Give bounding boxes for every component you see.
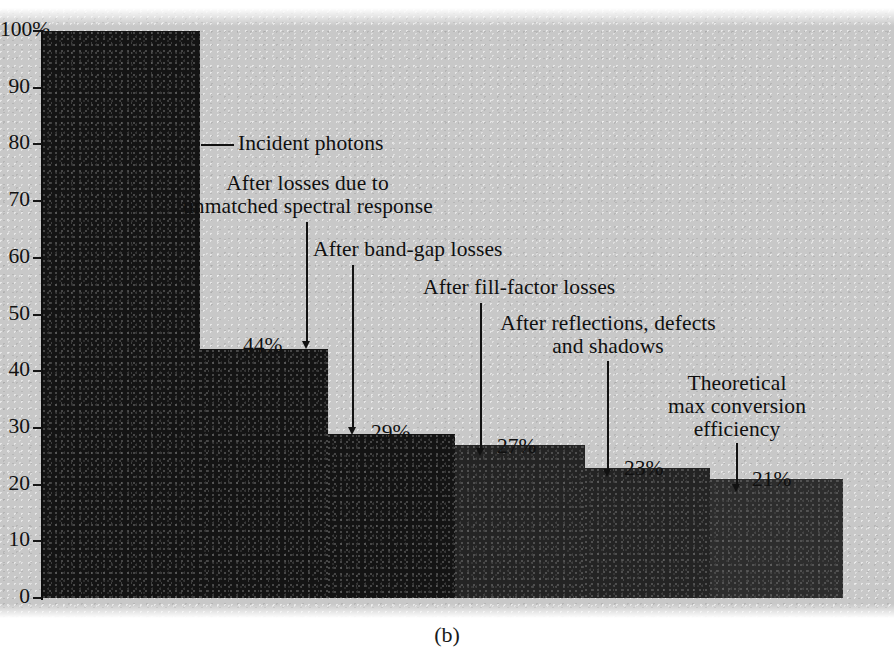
arrowhead-fill-factor-losses <box>476 448 484 456</box>
y-axis-tick <box>33 597 42 599</box>
plate-top-fade <box>0 8 894 26</box>
annotation-theoretical-max-efficiency: Theoretical max conversion efficiency <box>648 372 826 442</box>
y-axis-tick <box>33 143 42 145</box>
value-label-21: 21% <box>752 467 791 492</box>
annotation-line-1: After losses due to <box>226 171 389 195</box>
annotation-fill-factor-losses: After fill-factor losses <box>423 276 615 299</box>
y-axis-tick-label: 60 <box>0 246 30 268</box>
annotation-line-1: Theoretical <box>688 371 787 395</box>
bar-segment <box>710 479 843 598</box>
annotation-reflections-defects-shadows: After reflections, defects and shadows <box>495 312 721 358</box>
leader-line-fill-factor-losses <box>480 303 482 451</box>
y-axis-tick <box>33 257 42 259</box>
figure-panel-b: 100%9080706050403020100 44% 29% 27% 23% … <box>0 0 894 672</box>
leader-line-reflections-defects-shadows <box>607 361 609 472</box>
arrowhead-unmatched-spectral-response <box>302 341 310 349</box>
y-axis-tick-label: 30 <box>0 416 30 438</box>
y-axis-tick-label: 40 <box>0 359 30 381</box>
bar-segment <box>328 434 455 598</box>
y-axis-tick <box>33 87 42 89</box>
annotation-line-2: unmatched spectral response <box>183 194 433 218</box>
y-axis-tick-label: 10 <box>0 529 30 551</box>
y-axis-tick-label: 90 <box>0 76 30 98</box>
y-axis-tick-label: 0 <box>0 586 30 608</box>
annotation-line-2: max conversion <box>668 394 806 418</box>
annotation-line-1: After reflections, defects <box>500 311 716 335</box>
y-axis-tick <box>33 540 42 542</box>
value-label-29: 29% <box>371 420 410 445</box>
bar-segment <box>455 445 585 598</box>
value-label-23: 23% <box>624 456 663 481</box>
value-label-27: 27% <box>497 434 536 459</box>
value-label-44: 44% <box>243 333 282 358</box>
annotation-unmatched-spectral-response: After losses due to unmatched spectral r… <box>183 172 432 218</box>
y-axis-tick <box>33 314 42 316</box>
annotation-line-2: and shadows <box>552 334 664 358</box>
y-axis-tick-label: 50 <box>0 303 30 325</box>
y-axis-tick-label: 20 <box>0 473 30 495</box>
leader-line-incident-photons <box>201 144 234 146</box>
arrowhead-band-gap-losses <box>348 427 356 435</box>
y-axis-tick <box>33 484 42 486</box>
y-axis-tick <box>33 370 42 372</box>
y-axis-tick-label: 80 <box>0 132 30 154</box>
y-axis-tick <box>33 427 42 429</box>
arrowhead-reflections-defects-shadows <box>603 469 611 477</box>
leader-line-band-gap-losses <box>352 265 354 430</box>
bar-segment <box>585 468 710 598</box>
annotation-band-gap-losses: After band-gap losses <box>313 238 503 261</box>
y-axis-tick <box>33 200 42 202</box>
bar-segment <box>43 31 200 598</box>
leader-line-unmatched-spectral-response <box>306 222 308 344</box>
bar-segment <box>200 349 328 598</box>
arrowhead-theoretical-max-efficiency <box>732 484 740 492</box>
annotation-incident-photons: Incident photons <box>238 132 384 155</box>
annotation-line-3: efficiency <box>694 417 781 441</box>
figure-caption: (b) <box>0 622 894 648</box>
y-axis-tick-label: 70 <box>0 189 30 211</box>
y-axis-tick-label: 100% <box>0 19 30 41</box>
leader-line-theoretical-max-efficiency <box>736 443 738 487</box>
plate-bottom-fade <box>0 604 894 618</box>
